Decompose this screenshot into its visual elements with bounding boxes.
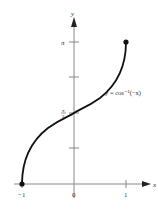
x-axis-label: x [152, 181, 157, 189]
x-tick-label-one: 1 [124, 191, 128, 199]
x-tick-label-neg1: −1 [18, 191, 26, 199]
y-axis-label: y [70, 10, 75, 18]
y-tick-label-pi: π [61, 39, 65, 47]
x-tick-label-zero: 0 [72, 191, 76, 199]
y-axis-arrow-icon [71, 17, 77, 27]
chart: y x −1 0 1 π π 2 y = cos⁻¹(−x) [0, 0, 158, 213]
endpoint-dot [19, 181, 24, 186]
endpoint-dot [123, 39, 128, 44]
x-axis-arrow-icon [142, 181, 151, 187]
y-tick-label-pi-half-num: π [62, 108, 65, 113]
curve-label: y = cos⁻¹(−x) [105, 89, 141, 97]
